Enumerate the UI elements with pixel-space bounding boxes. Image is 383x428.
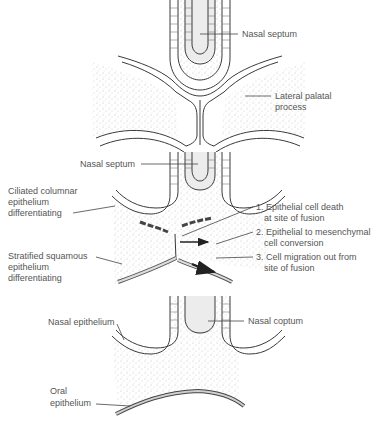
panel-2: Nasal septum Ciliated columnar epitheliu… — [8, 152, 371, 285]
label-ciliated-2: epithelium — [8, 197, 49, 207]
palate-fusion-diagram: Nasal septum Lateral palatal process — [0, 0, 383, 428]
label-stratified-2: epithelium — [8, 262, 49, 272]
label-ciliated-1: Ciliated columnar — [8, 186, 78, 196]
label-step1-1: 1. Epithelial cell death — [256, 202, 344, 212]
label-oral-1: Oral — [50, 386, 67, 396]
label-nasal-septum-2: Nasal septum — [80, 159, 135, 169]
label-step3-1: 3. Cell migration out from — [256, 252, 357, 262]
label-step2-1: 2. Epithelial to mesenchymal — [256, 227, 371, 237]
label-step2-2: cell conversion — [264, 238, 324, 248]
label-stratified-1: Stratified squamous — [8, 251, 88, 261]
label-nasal-septum-1: Nasal septum — [242, 29, 297, 39]
label-ciliated-3: differentiating — [8, 208, 62, 218]
mesenchyme-3 — [112, 296, 250, 412]
label-oral-2: epithelium — [50, 398, 91, 408]
label-nasal-epithelium: Nasal epithelium — [48, 317, 115, 327]
label-lateral-palatal-1: Lateral palatal — [275, 91, 332, 101]
label-stratified-3: differentiating — [8, 273, 62, 283]
panel-3: Nasal epithelium Nasal coptum Oral epith… — [48, 296, 303, 414]
label-step1-2: at site of fusion — [264, 213, 325, 223]
label-lateral-palatal-2: process — [275, 102, 307, 112]
label-step3-2: site of fusion — [264, 263, 315, 273]
lateral-palatal-process-left — [92, 62, 178, 138]
label-nasal-septum-3: Nasal coptum — [248, 316, 303, 326]
panel-1: Nasal septum Lateral palatal process — [92, 0, 332, 152]
